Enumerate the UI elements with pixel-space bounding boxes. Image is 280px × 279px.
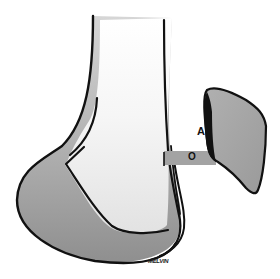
bone-diagram: [0, 0, 280, 279]
label-a: A: [197, 126, 205, 137]
graft-piece: [204, 88, 266, 193]
artist-signature: MELVIN: [148, 258, 169, 264]
label-o: O: [188, 152, 196, 162]
